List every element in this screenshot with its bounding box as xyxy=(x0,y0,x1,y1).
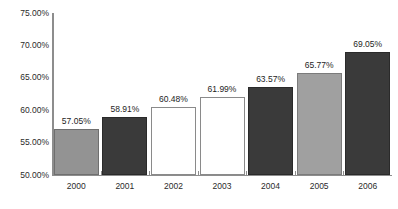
bar-value-label: 69.05% xyxy=(338,39,398,49)
bar-2001[interactable] xyxy=(102,117,147,175)
x-axis-tick xyxy=(198,171,199,176)
x-axis-line xyxy=(52,175,392,176)
bar-2005[interactable] xyxy=(297,73,342,175)
y-axis-tick-label: 70.00% xyxy=(3,41,49,50)
bar-2003[interactable] xyxy=(200,97,245,175)
x-axis-tick xyxy=(101,171,102,176)
bar-value-label: 61.99% xyxy=(192,84,252,94)
x-axis-tick xyxy=(149,171,150,176)
bar-value-label: 60.48% xyxy=(143,94,203,104)
bar-value-label: 57.05% xyxy=(46,116,106,126)
y-axis-tick-labels: 75.00%70.00%65.00%60.00%55.00%50.00% xyxy=(0,0,49,209)
bar-chart: 75.00%70.00%65.00%60.00%55.00%50.00% 57.… xyxy=(0,0,398,209)
y-axis-tick-label: 60.00% xyxy=(3,106,49,115)
y-axis-tick-label: 75.00% xyxy=(3,9,49,18)
y-axis-tick-label: 55.00% xyxy=(3,138,49,147)
bar-value-label: 63.57% xyxy=(241,74,301,84)
x-axis-tick xyxy=(295,171,296,176)
x-axis-category-label: 2006 xyxy=(338,181,398,191)
bar-2002[interactable] xyxy=(151,107,196,175)
bar-value-label: 58.91% xyxy=(95,104,155,114)
bar-value-label: 65.77% xyxy=(289,60,349,70)
y-axis-tick-label: 65.00% xyxy=(3,73,49,82)
bar-2000[interactable] xyxy=(54,129,99,175)
x-axis-tick xyxy=(343,171,344,176)
y-axis-tick-label: 50.00% xyxy=(3,171,49,180)
bar-2004[interactable] xyxy=(248,87,293,175)
x-axis-tick xyxy=(246,171,247,176)
bar-2006[interactable] xyxy=(345,52,390,175)
